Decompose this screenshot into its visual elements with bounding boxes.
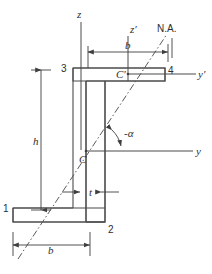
axis-z-label: z <box>76 8 82 20</box>
dimension-h: h <box>31 70 51 210</box>
corner-label-1: 1 <box>3 203 9 214</box>
centroid-C: C <box>79 150 87 165</box>
dimension-b-bottom: b <box>13 232 90 256</box>
angle-alpha-label: -α <box>124 127 134 139</box>
dimension-b-top-label: b <box>125 39 131 51</box>
centroid-C-label: C <box>79 153 87 165</box>
centroid-C-prime: C′ <box>116 68 129 80</box>
centroid-C-prime-label: C′ <box>116 68 126 80</box>
corner-label-2: 2 <box>108 224 114 235</box>
dimension-h-label: h <box>33 135 39 147</box>
corner-label-3: 3 <box>61 63 67 74</box>
axis-z: z <box>76 8 82 150</box>
figure-container: z y z′ y′ N.A. -α <box>0 0 212 274</box>
neutral-axis-line: N.A. <box>18 23 176 259</box>
axis-y-prime-label: y′ <box>197 68 206 80</box>
z-section-diagram: z y z′ y′ N.A. -α <box>0 0 212 274</box>
dimension-t-label: t <box>89 186 93 198</box>
neutral-axis-label: N.A. <box>157 23 176 34</box>
axis-y-label: y <box>195 145 201 157</box>
dimension-b-bottom-label: b <box>48 244 54 256</box>
dimension-t: t <box>62 186 119 198</box>
corner-label-4: 4 <box>168 65 174 76</box>
axis-y-prime: y′ <box>128 68 206 80</box>
axis-y: y <box>86 145 201 157</box>
angle-alpha: -α <box>112 127 134 146</box>
axis-z-prime-label: z′ <box>129 23 137 35</box>
